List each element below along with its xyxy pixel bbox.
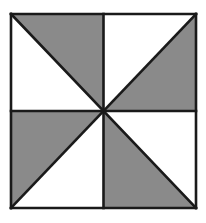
- pinwheel-svg: [0, 0, 206, 223]
- grid-lines: [11, 14, 196, 208]
- pinwheel-figure: [0, 0, 206, 223]
